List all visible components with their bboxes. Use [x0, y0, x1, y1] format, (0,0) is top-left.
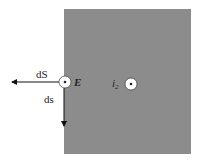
E-point-out-of-page-icon: [59, 76, 71, 88]
i2-current-out-of-page-icon: [125, 78, 137, 90]
diagram-canvas: dS ds E i2: [0, 0, 204, 168]
E-label: E: [73, 76, 81, 88]
ds-label: ds: [44, 93, 54, 105]
dS-label: dS: [36, 68, 48, 80]
